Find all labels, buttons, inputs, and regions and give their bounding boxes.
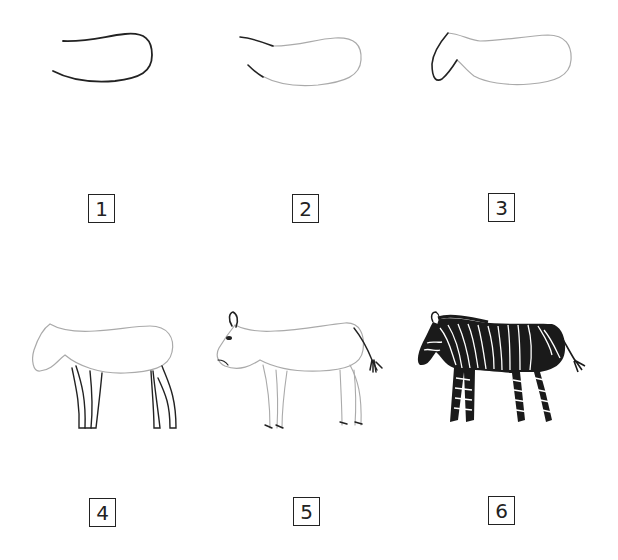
step-4-drawing [33,324,176,428]
step-3-label: 3 [488,193,515,222]
step-4-label: 4 [89,498,116,527]
step-6-zebra [418,312,585,422]
step-2-label: 2 [292,194,319,223]
step-6-label: 6 [488,496,515,525]
step-1-drawing [53,34,152,82]
drawing-tutorial: 1 2 3 4 5 6 [0,0,618,560]
step-3-drawing [432,33,571,85]
step-1-label: 1 [88,194,115,223]
step-5-drawing [217,312,382,428]
illustrations [0,0,618,560]
step-5-label: 5 [293,497,320,526]
step-2-drawing [240,37,361,86]
